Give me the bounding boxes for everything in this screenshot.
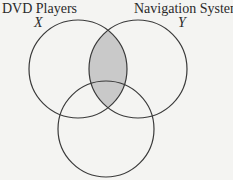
venn-diagram: DVD Players X Navigation System Y bbox=[0, 0, 233, 180]
set-x-variable: X bbox=[34, 16, 43, 30]
set-x-title: DVD Players bbox=[2, 2, 77, 16]
set-y-title: Navigation System bbox=[134, 2, 233, 16]
set-y-variable: Y bbox=[178, 16, 186, 30]
